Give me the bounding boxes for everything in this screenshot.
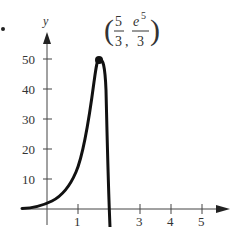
- x-tick-label: 4: [167, 214, 174, 227]
- x-tick-label: 5: [198, 214, 205, 227]
- y-axis-arrow-icon: [43, 32, 51, 44]
- svg-text:5: 5: [115, 14, 122, 29]
- svg-text:,: ,: [125, 34, 129, 49]
- svg-text:): ): [150, 13, 160, 47]
- svg-text:3: 3: [137, 34, 144, 49]
- svg-text:5: 5: [141, 10, 146, 21]
- y-tick-label: 50: [22, 52, 35, 67]
- chart: y 50 40 30 20 10 1 3 4 5 ( 5 3 , e 5 3 ): [0, 0, 235, 227]
- x-tick-label: 1: [74, 214, 81, 227]
- x-axis-arrow-icon: [216, 205, 230, 213]
- maximum-annotation: ( 5 3 , e 5 3 ): [104, 10, 160, 49]
- y-tick-label: 30: [22, 112, 35, 127]
- y-tick-label: 20: [22, 142, 35, 157]
- maximum-point: [95, 56, 103, 64]
- x-tick-label: 3: [136, 214, 143, 227]
- y-tick-label: 40: [22, 82, 35, 97]
- function-curve: [22, 59, 110, 227]
- svg-text:(: (: [104, 13, 114, 47]
- y-tick-label: 10: [22, 172, 35, 187]
- y-axis-label: y: [42, 14, 49, 28]
- svg-text:e: e: [133, 14, 139, 29]
- svg-text:3: 3: [115, 34, 122, 49]
